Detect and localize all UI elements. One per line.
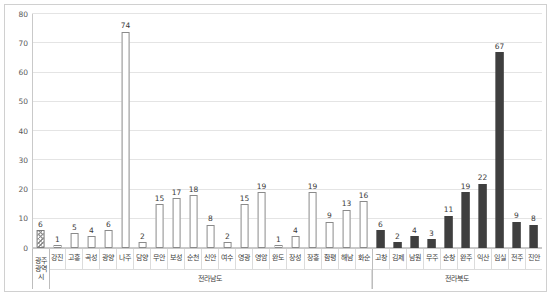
category-label: 장성 bbox=[287, 249, 304, 269]
bar-value-label: 2 bbox=[225, 233, 230, 241]
category-label: 고흥 bbox=[66, 249, 83, 269]
bar[interactable] bbox=[461, 192, 470, 248]
bar-slot: 19 bbox=[253, 14, 270, 248]
bar-value-label: 2 bbox=[140, 233, 145, 241]
bar-slot: 4 bbox=[287, 14, 304, 248]
bar-value-label: 19 bbox=[461, 183, 471, 191]
bar[interactable] bbox=[478, 184, 487, 248]
bar-slot: 2 bbox=[134, 14, 151, 248]
y-tick-label-70: 70 bbox=[4, 40, 28, 48]
bar-slot: 5 bbox=[66, 14, 83, 248]
bar-value-label: 6 bbox=[38, 221, 43, 229]
bar-slot: 19 bbox=[457, 14, 474, 248]
bar-slot: 2 bbox=[389, 14, 406, 248]
bar[interactable] bbox=[427, 239, 436, 248]
bar-value-label: 4 bbox=[293, 227, 298, 235]
bar[interactable] bbox=[495, 52, 504, 248]
group-separator bbox=[32, 249, 33, 289]
bar[interactable] bbox=[257, 192, 266, 248]
y-tick-label-10: 10 bbox=[4, 215, 28, 223]
bar-value-label: 2 bbox=[395, 233, 400, 241]
category-label: 화순 bbox=[356, 249, 373, 269]
category-label: 강진 bbox=[49, 249, 66, 269]
category-label: 완주 bbox=[458, 249, 475, 269]
bar-slot: 4 bbox=[406, 14, 423, 248]
bar[interactable] bbox=[291, 236, 300, 248]
y-tick-label-40: 40 bbox=[4, 127, 28, 135]
y-tick-label-50: 50 bbox=[4, 98, 28, 106]
y-tick-label-30: 30 bbox=[4, 157, 28, 165]
bar-slot: 67 bbox=[491, 14, 508, 248]
bar[interactable] bbox=[444, 216, 453, 248]
bar-value-label: 22 bbox=[478, 174, 488, 182]
y-tick-label-80: 80 bbox=[4, 10, 28, 18]
bar[interactable] bbox=[240, 204, 249, 248]
bar-value-label: 15 bbox=[155, 195, 165, 203]
y-tick-label-60: 60 bbox=[4, 69, 28, 77]
y-tick-label-20: 20 bbox=[4, 186, 28, 194]
bar[interactable] bbox=[36, 230, 45, 248]
bar-slot: 22 bbox=[474, 14, 491, 248]
bar[interactable] bbox=[206, 225, 215, 248]
bar[interactable] bbox=[512, 222, 521, 248]
category-label: 담양 bbox=[134, 249, 151, 269]
bar-value-label: 13 bbox=[342, 200, 352, 208]
category-label: 전주 bbox=[509, 249, 526, 269]
bar-value-label: 1 bbox=[55, 236, 60, 244]
bar[interactable] bbox=[529, 225, 538, 248]
bar[interactable] bbox=[342, 210, 351, 248]
bar-slot: 1 bbox=[49, 14, 66, 248]
category-label: 영광 bbox=[236, 249, 253, 269]
bar-value-label: 9 bbox=[514, 212, 519, 220]
bar[interactable] bbox=[325, 222, 334, 248]
bar[interactable] bbox=[70, 233, 79, 248]
bar-value-label: 17 bbox=[172, 189, 182, 197]
bar[interactable] bbox=[410, 236, 419, 248]
bar-value-label: 6 bbox=[106, 221, 111, 229]
group-label: 전라북도 bbox=[372, 270, 542, 289]
category-label: 무안 bbox=[151, 249, 168, 269]
category-label: 김제 bbox=[390, 249, 407, 269]
bar-slot: 6 bbox=[32, 14, 49, 248]
bar[interactable] bbox=[376, 230, 385, 248]
bar[interactable] bbox=[189, 195, 198, 248]
bars-layer: 6154674215171882151914199131662431119226… bbox=[32, 14, 542, 248]
bar-slot: 1 bbox=[270, 14, 287, 248]
bar-value-label: 15 bbox=[240, 195, 250, 203]
bar[interactable] bbox=[104, 230, 113, 248]
category-label: 장흥 bbox=[305, 249, 322, 269]
bar-slot: 16 bbox=[355, 14, 372, 248]
bar[interactable] bbox=[359, 201, 368, 248]
bar-slot: 15 bbox=[236, 14, 253, 248]
bar-value-label: 18 bbox=[189, 186, 199, 194]
bar-value-label: 16 bbox=[359, 192, 369, 200]
bar[interactable] bbox=[87, 236, 96, 248]
bar[interactable] bbox=[155, 204, 164, 248]
bar[interactable] bbox=[172, 198, 181, 248]
category-label: 진안 bbox=[526, 249, 542, 269]
category-label: 무주 bbox=[424, 249, 441, 269]
category-label: 곡성 bbox=[83, 249, 100, 269]
bar-value-label: 3 bbox=[429, 230, 434, 238]
bar[interactable] bbox=[308, 192, 317, 248]
bar-slot: 17 bbox=[168, 14, 185, 248]
bar[interactable] bbox=[121, 32, 130, 248]
bar-value-label: 5 bbox=[72, 224, 77, 232]
category-label: 광양 bbox=[100, 249, 117, 269]
category-label: 순창 bbox=[441, 249, 458, 269]
group-label-gwangju: 광주 광역시 bbox=[32, 249, 49, 289]
category-label: 보성 bbox=[168, 249, 185, 269]
bar-slot: 19 bbox=[304, 14, 321, 248]
bar-slot: 18 bbox=[185, 14, 202, 248]
bar-slot: 4 bbox=[83, 14, 100, 248]
category-label: 해남 bbox=[339, 249, 356, 269]
bar-value-label: 19 bbox=[308, 183, 318, 191]
category-label: 순천 bbox=[185, 249, 202, 269]
category-label: 나주 bbox=[117, 249, 134, 269]
category-label: 신안 bbox=[202, 249, 219, 269]
group-label: 전라남도 bbox=[49, 270, 372, 289]
bar-slot: 74 bbox=[117, 14, 134, 248]
bar-value-label: 19 bbox=[257, 183, 267, 191]
bar-chart: 01020304050607080 6154674215171882151914… bbox=[0, 0, 552, 302]
bar-value-label: 8 bbox=[208, 215, 213, 223]
